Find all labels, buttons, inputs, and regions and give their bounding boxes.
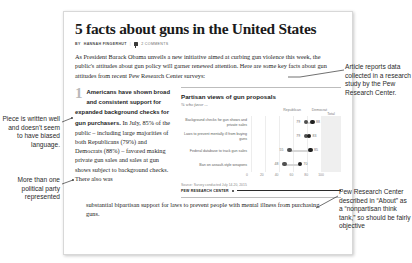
fact-tail-text: substantial bipartisan support for laws … <box>75 200 341 218</box>
chart-total-shade <box>321 116 341 172</box>
chart-column: Partisan views of gun proposals % who fa… <box>181 87 341 198</box>
annotation-left-top: Piece is written well and doesn't seem t… <box>2 115 60 149</box>
content-columns: 1 Americans have shown broad and consist… <box>75 87 341 198</box>
chart-dot-dem <box>307 134 311 138</box>
axis-tick-label: 20 <box>260 173 264 177</box>
chart-gridline <box>293 116 294 130</box>
byline-author[interactable]: HANNAH FINGERHUT <box>84 42 127 46</box>
chart-gridline <box>251 158 252 172</box>
chart-row-track: 4870 <box>251 158 321 172</box>
byline: BY HANNAH FINGERHUT | 2 COMMENTS <box>75 42 341 46</box>
chart-title: Partisan views of gun proposals <box>181 93 341 100</box>
chart-row: Federal database to track gun sales55857… <box>181 144 341 158</box>
org-rule <box>237 190 341 191</box>
article-lede: As President Barack Obama unveils a new … <box>75 52 341 80</box>
byline-separator: | <box>130 42 131 46</box>
chart-gridline <box>265 144 266 158</box>
chart-dot-dem <box>308 148 312 152</box>
chart-value-low: 79 <box>296 134 300 138</box>
chart-dot-rep <box>287 148 291 152</box>
chart-row: Ban on assault-style weapons487057 <box>181 158 341 172</box>
chart-gridline <box>251 130 252 144</box>
chart-row-track: 5585 <box>251 144 321 158</box>
chart-plot: Republican Democrat Total Background che… <box>181 112 341 179</box>
chart-value-high: 88 <box>316 120 320 124</box>
article-body: 5 facts about guns in the United States … <box>64 12 352 218</box>
fact-text: Americans have shown broad and consisten… <box>75 87 171 183</box>
chart-row-label: Background checks for gun shows and priv… <box>181 118 251 127</box>
legend-democrat: Democrat <box>312 108 327 112</box>
chart-gridline <box>265 130 266 144</box>
chart-dot-dem <box>298 162 302 166</box>
chart-row-track: 7988 <box>251 116 321 130</box>
fact-column: 1 Americans have shown broad and consist… <box>75 87 171 183</box>
annotation-left-bottom: More than one political party represente… <box>2 176 60 202</box>
chart-gridline <box>251 144 252 158</box>
chart-axis: 020406080100 <box>181 173 341 179</box>
chart-gridline <box>293 130 294 144</box>
chart-dot-rep <box>282 162 286 166</box>
chart-gridline <box>279 130 280 144</box>
chart-dot-dem <box>310 120 314 124</box>
chart-value-high: 83 <box>313 134 317 138</box>
annotation-right-top: Article reports data collected in a rese… <box>345 63 411 97</box>
annotation-right-bottom: Pew Research Center described in “About”… <box>339 188 412 231</box>
article-card: 5 facts about guns in the United States … <box>63 11 353 255</box>
chart-row-label: Laws to prevent mentally ill from buying… <box>181 132 251 141</box>
axis-tick-label: 80 <box>304 173 308 177</box>
chart-source: Source: Survey conducted July 14-20, 201… <box>181 183 341 187</box>
fact-body: In July, 85% of the public – including l… <box>75 119 170 182</box>
page-title: 5 facts about guns in the United States <box>75 21 341 37</box>
chart-row-label: Ban on assault-style weapons <box>181 163 251 168</box>
chart-gridline <box>279 116 280 130</box>
axis-tick-label: 60 <box>290 173 294 177</box>
chart-row-label: Federal database to track gun sales <box>181 149 251 154</box>
chart-legend: Republican Democrat <box>283 108 327 112</box>
chart-value-high: 70 <box>304 162 308 166</box>
chart-row: Background checks for gun shows and priv… <box>181 116 341 130</box>
chart-rows: Background checks for gun shows and priv… <box>181 116 341 172</box>
chart-row-track: 7983 <box>251 130 321 144</box>
chart-org-line: PEW RESEARCH CENTER <box>181 189 341 193</box>
chart-value-high: 85 <box>314 148 318 152</box>
legend-republican: Republican <box>283 108 301 112</box>
chart-gridline <box>265 116 266 130</box>
comment-bubble-icon <box>134 42 138 45</box>
partisan-chart: Partisan views of gun proposals % who fa… <box>181 87 341 198</box>
comment-count[interactable]: 2 COMMENTS <box>141 42 168 46</box>
axis-tick-label: 40 <box>275 173 279 177</box>
chart-gridline <box>251 116 252 130</box>
axis-tick-track: 020406080100 <box>247 173 321 179</box>
screenshot-canvas: 5 facts about guns in the United States … <box>0 0 412 263</box>
chart-gridline <box>279 158 280 172</box>
org-rule-dot <box>232 190 235 193</box>
byline-prefix: BY <box>75 42 81 46</box>
axis-tick-label: 0 <box>246 173 248 177</box>
axis-tick-label: 100 <box>318 173 324 177</box>
fact-item-1: 1 Americans have shown broad and consist… <box>75 87 171 183</box>
chart-org-label: PEW RESEARCH CENTER <box>181 189 229 193</box>
chart-row: Laws to prevent mentally ill from buying… <box>181 130 341 144</box>
chart-value-low: 55 <box>280 148 284 152</box>
chart-gridline <box>265 158 266 172</box>
chart-subtitle: % who favor ... <box>181 102 341 107</box>
chart-value-low: 48 <box>275 162 279 166</box>
fact-number: 1 <box>75 87 83 99</box>
chart-value-low: 79 <box>296 120 300 124</box>
